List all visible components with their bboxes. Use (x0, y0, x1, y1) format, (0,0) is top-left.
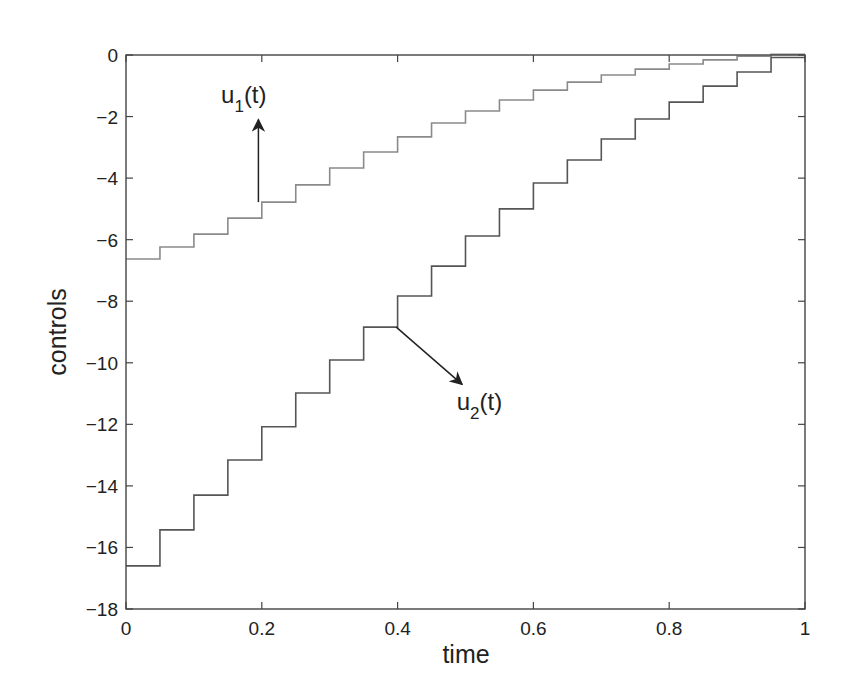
y-tick-label: −10 (86, 353, 118, 374)
x-tick-label: 0 (121, 618, 132, 639)
y-tick-label: −16 (86, 537, 118, 558)
y-tick-label: 0 (107, 45, 118, 66)
series-layer (126, 54, 805, 566)
arrow-icon-u2 (396, 327, 462, 384)
y-tick-label: −6 (96, 230, 118, 251)
x-tick-labels: 00.20.40.60.81 (121, 618, 811, 639)
y-tick-label: −4 (96, 168, 118, 189)
axis-ticks (126, 55, 805, 609)
series-label-u1: u1(t) (221, 81, 266, 116)
x-tick-label: 1 (800, 618, 811, 639)
y-axis-label: controls (43, 288, 71, 376)
series-line-u2 (126, 57, 805, 565)
plot-frame (126, 55, 805, 609)
step-chart: u1(t)u2(t) 00.20.40.60.81 0−2−4−6−8−10−1… (0, 0, 851, 699)
x-tick-label: 0.4 (384, 618, 411, 639)
y-tick-label: −14 (86, 476, 119, 497)
x-tick-label: 0.6 (520, 618, 546, 639)
y-tick-label: −8 (96, 291, 118, 312)
x-tick-label: 0.8 (656, 618, 682, 639)
y-tick-label: −18 (86, 599, 118, 620)
y-tick-labels: 0−2−4−6−8−10−12−14−16−18 (86, 45, 119, 620)
y-tick-label: −12 (86, 414, 118, 435)
annotation-layer: u1(t)u2(t) (221, 81, 502, 424)
y-tick-label: −2 (96, 107, 118, 128)
series-label-u2: u2(t) (457, 388, 502, 423)
x-axis-label: time (442, 640, 489, 668)
x-tick-label: 0.2 (249, 618, 275, 639)
